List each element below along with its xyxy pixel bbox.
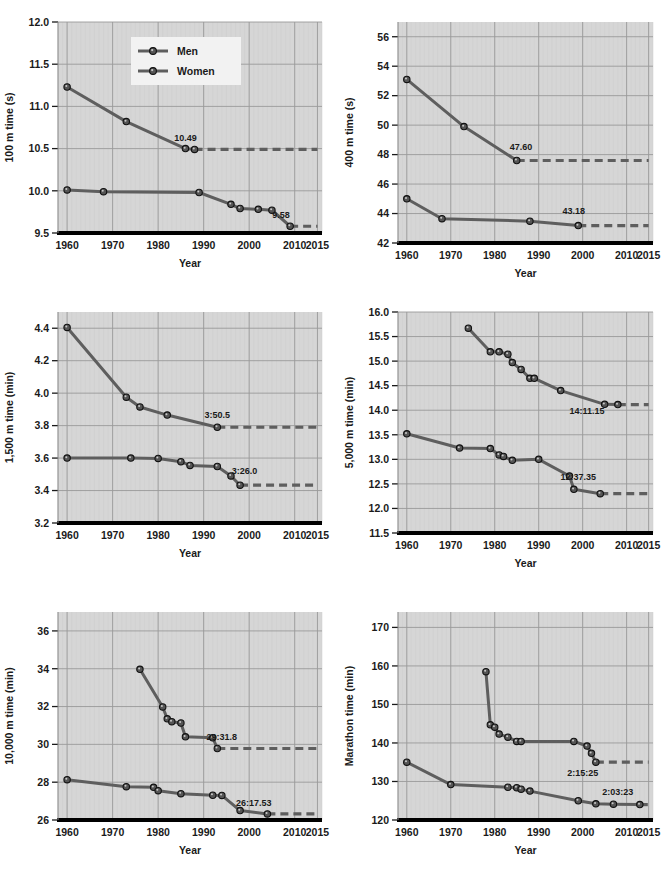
chart-panel-5000m: 11.512.012.513.013.514.014.515.015.516.0… [340, 290, 671, 590]
data-point-highlight [129, 456, 131, 458]
data-point [64, 324, 70, 330]
ytick-label: 13.0 [369, 453, 390, 465]
xtick-label: 1980 [483, 539, 507, 551]
record-annotation: 9.58 [272, 210, 290, 220]
data-point-highlight [184, 147, 186, 149]
chart-svg-100m: 9.510.010.511.011.512.019601970198019902… [0, 0, 340, 290]
record-annotation: 3:26.0 [232, 466, 258, 476]
data-point-highlight [65, 85, 67, 87]
data-point-highlight [519, 787, 521, 789]
data-point-highlight [238, 207, 240, 209]
legend-label-women: Women [177, 65, 215, 77]
data-point-highlight [216, 465, 218, 467]
chart-panel-1500m: 3.23.43.63.84.04.24.41960197019801990200… [0, 290, 340, 590]
data-point [518, 738, 524, 744]
data-point-highlight [497, 453, 499, 455]
data-point [527, 218, 533, 224]
data-point-highlight [184, 735, 186, 737]
data-point [404, 76, 410, 82]
data-point [492, 724, 498, 730]
xtick-label: 1970 [101, 529, 125, 541]
record-annotation: 26:17.53 [236, 798, 272, 808]
data-point [155, 455, 161, 461]
data-point-highlight [493, 725, 495, 727]
xtick-label: 1960 [55, 826, 79, 838]
xtick-label: 2000 [237, 529, 261, 541]
data-point-highlight [124, 785, 126, 787]
ytick-label: 42 [377, 237, 389, 249]
data-point [228, 201, 234, 207]
data-point-highlight [256, 207, 258, 209]
data-point [404, 431, 410, 437]
data-point-highlight [515, 786, 517, 788]
data-point-highlight [462, 125, 464, 127]
ytick-label: 48 [377, 148, 389, 160]
data-point [575, 798, 581, 804]
ytick-label: 46 [377, 178, 389, 190]
chart-svg-1500m: 3.23.43.63.84.04.24.41960197019801990200… [0, 290, 340, 580]
data-point [196, 189, 202, 195]
chart-svg-5000m: 11.512.012.513.013.514.014.515.015.516.0… [340, 290, 671, 590]
xtick-label: 1960 [55, 529, 79, 541]
legend-swatch-highlight [151, 69, 153, 71]
xtick-label: 2000 [571, 249, 595, 261]
data-point [588, 750, 594, 756]
data-point-highlight [603, 402, 605, 404]
data-point-highlight [405, 432, 407, 434]
x-axis-title: Year [179, 844, 201, 856]
ytick-label: 160 [371, 660, 389, 672]
data-point-highlight [489, 447, 491, 449]
ytick-label: 3.8 [34, 419, 49, 431]
data-point [182, 734, 188, 740]
data-point-highlight [528, 219, 530, 221]
data-point-highlight [440, 217, 442, 219]
data-point [264, 811, 270, 817]
data-point [487, 349, 493, 355]
data-point-highlight [216, 747, 218, 749]
xtick-label: 1970 [439, 249, 463, 261]
data-point-highlight [138, 405, 140, 407]
data-point-highlight [65, 456, 67, 458]
data-point-highlight [585, 744, 587, 746]
ytick-label: 170 [371, 621, 389, 633]
data-point-highlight [238, 809, 240, 811]
xtick-label: 2015 [306, 239, 330, 251]
xtick-label: 2015 [637, 249, 661, 261]
x-axis-title: Year [179, 257, 201, 269]
data-point-highlight [229, 202, 231, 204]
ytick-label: 36 [37, 625, 49, 637]
ytick-label: 4.0 [34, 387, 49, 399]
data-point-highlight [65, 188, 67, 190]
data-point-highlight [572, 487, 574, 489]
data-point [214, 745, 220, 751]
data-point [615, 401, 621, 407]
data-point-highlight [497, 350, 499, 352]
xtick-label: 1980 [146, 239, 170, 251]
data-point [505, 784, 511, 790]
data-point [637, 801, 643, 807]
data-point-highlight [179, 721, 181, 723]
data-point [128, 455, 134, 461]
ytick-label: 50 [377, 119, 389, 131]
data-point-highlight [405, 760, 407, 762]
data-point [518, 366, 524, 372]
data-point [123, 394, 129, 400]
y-axis-title: Marathon time (min) [343, 666, 355, 766]
data-point [575, 222, 581, 228]
ytick-label: 15.0 [369, 355, 390, 367]
data-point [100, 188, 106, 194]
data-point-highlight [572, 740, 574, 742]
data-point-highlight [638, 803, 640, 805]
data-point-highlight [405, 78, 407, 80]
data-point-highlight [598, 492, 600, 494]
ytick-label: 9.5 [34, 227, 49, 239]
xtick-label: 1990 [527, 539, 551, 551]
data-point [456, 445, 462, 451]
xtick-label: 1990 [192, 239, 216, 251]
xtick-label: 1960 [395, 249, 419, 261]
ytick-label: 12.0 [369, 502, 390, 514]
data-point [137, 404, 143, 410]
data-point-highlight [156, 789, 158, 791]
data-point-highlight [405, 197, 407, 199]
ytick-label: 130 [371, 775, 389, 787]
